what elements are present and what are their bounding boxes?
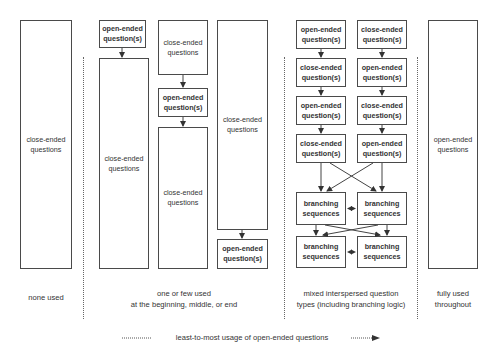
column-label-one-or-few: one or few used at the beginning, middle… bbox=[100, 288, 268, 310]
column-label-none-used: none used bbox=[10, 292, 82, 303]
column-label-mixed: mixed interspersed question types (inclu… bbox=[283, 288, 419, 310]
column-label-fully-used: fully used throughout bbox=[420, 288, 486, 310]
axis-label: least-to-most usage of open-ended questi… bbox=[155, 332, 349, 343]
